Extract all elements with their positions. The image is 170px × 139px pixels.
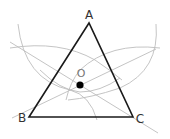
label-c: C [136, 112, 144, 126]
bisector-line-ac [12, 49, 156, 118]
label-o: O [77, 67, 86, 80]
label-b: B [18, 111, 26, 125]
construction-diagram: A B C O [0, 0, 170, 139]
label-a: A [85, 8, 94, 22]
arc-upper-left [10, 46, 122, 80]
point-o [76, 81, 83, 88]
